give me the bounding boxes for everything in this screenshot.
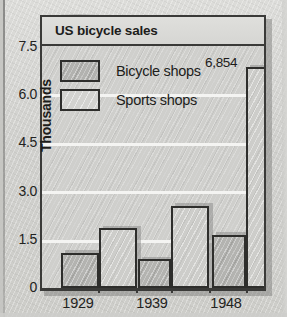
bar-bicycle-shops-1948 (212, 235, 246, 288)
y-axis-tick-labels: 7.5 6.0 4.5 3.0 1.5 0 (0, 0, 37, 317)
y-tick-label-6-0: 6.0 (1, 86, 37, 102)
bar-sports-shops-1948 (246, 67, 264, 288)
x-axis-tick (246, 288, 248, 293)
legend-item-sports-shops: Sports shops (60, 86, 201, 113)
y-tick-label-0: 0 (1, 279, 37, 295)
x-axis-tick (98, 288, 100, 293)
y-tick-label-7-5: 7.5 (1, 38, 37, 54)
chart-screenshot: US bicycle sales Bicycle shops Sports sh… (0, 0, 287, 317)
x-tick-label-1939: 1939 (112, 295, 192, 311)
legend-item-bicycle-shops: Bicycle shops (60, 57, 201, 84)
chart-legend: Bicycle shops Sports shops (60, 57, 201, 115)
y-tick-label-1-5: 1.5 (1, 231, 37, 247)
legend-label-sports-shops: Sports shops (116, 92, 197, 108)
x-axis-line (40, 288, 266, 291)
x-axis-tick (209, 288, 211, 293)
bar-bicycle-shops-1939 (138, 259, 171, 288)
y-tick-label-4-5: 4.5 (1, 134, 37, 150)
gridline-3-0 (42, 191, 264, 194)
x-tick-label-1948: 1948 (186, 295, 266, 311)
bar-sports-shops-1929 (99, 228, 137, 288)
y-tick-label-3-0: 3.0 (1, 183, 37, 199)
x-tick-label-1929: 1929 (38, 295, 118, 311)
legend-label-bicycle-shops: Bicycle shops (116, 63, 201, 79)
chart-title: US bicycle sales (55, 23, 158, 38)
x-axis-tick (171, 288, 173, 293)
bar-sports-shops-1939 (171, 206, 209, 288)
legend-swatch-bicycle-shops (60, 60, 100, 82)
bottom-scan-margin (0, 313, 287, 317)
y-axis-line (40, 15, 42, 290)
x-axis-tick (136, 288, 138, 293)
legend-swatch-sports-shops (60, 89, 100, 111)
y-axis-title: Thousands (38, 79, 54, 152)
chart-title-band: US bicycle sales (42, 17, 264, 46)
right-scan-margin (282, 0, 287, 317)
gridline-4-5 (42, 143, 264, 146)
bar-bicycle-shops-1929 (61, 253, 99, 289)
bar-value-label-1948-sports-shops: 6,854 (205, 55, 237, 70)
